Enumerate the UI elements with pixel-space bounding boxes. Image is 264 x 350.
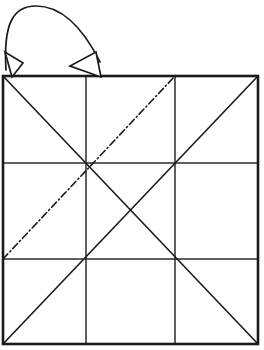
figure-root <box>0 0 264 350</box>
fold-diagram-svg <box>0 0 264 350</box>
figure-background <box>0 0 264 350</box>
